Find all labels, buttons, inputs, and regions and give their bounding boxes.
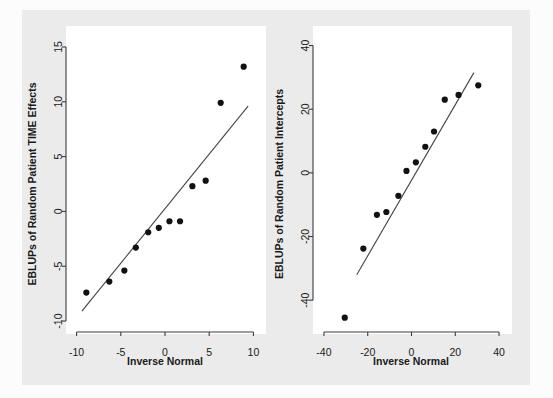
right-y-tick-label: -20 <box>299 229 311 244</box>
right-y-tick-label: 20 <box>299 103 311 115</box>
right-y-tick-label: 40 <box>299 40 311 52</box>
right-x-tick-label: 40 <box>493 346 505 358</box>
scatter-plot-intercepts: -40-2002040-40-2002040Inverse NormalEBLU… <box>0 0 553 398</box>
right-data-point <box>455 92 461 98</box>
right-data-point <box>431 128 437 134</box>
right-x-tick-label: 20 <box>449 346 461 358</box>
right-data-point <box>383 209 389 215</box>
right-x-tick-label: -40 <box>316 346 331 358</box>
right-y-tick-label: 0 <box>299 170 311 176</box>
right-data-point <box>403 168 409 174</box>
right-data-point <box>422 144 428 150</box>
right-data-point <box>475 82 481 88</box>
right-plot-area <box>313 26 512 334</box>
right-data-point <box>442 97 448 103</box>
right-x-axis-title: Inverse Normal <box>373 355 449 367</box>
right-y-tick-label: -40 <box>299 292 311 307</box>
right-data-point <box>395 193 401 199</box>
right-data-point <box>374 212 380 218</box>
right-y-axis-title: EBLUPs of Random Patient Intercepts <box>273 89 285 279</box>
figure-canvas: -10-5051015-10-50510Inverse NormalEBLUPs… <box>0 0 553 398</box>
right-data-point <box>413 159 419 165</box>
right-data-point <box>360 246 366 252</box>
right-data-point <box>342 315 348 321</box>
